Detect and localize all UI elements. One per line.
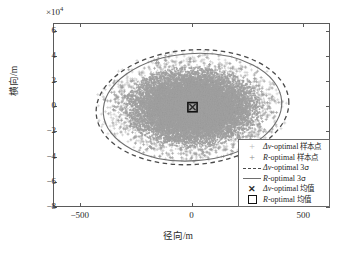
y-axis-exponent-label: ×104 xyxy=(46,5,63,17)
y-tick-right xyxy=(326,81,330,82)
legend-key xyxy=(241,168,263,169)
square-marker-icon xyxy=(248,195,257,204)
x-marker-icon: ✕ xyxy=(248,185,256,193)
legend: +Δv-optimal 样本点+R-optimal 样本点Δv-optimal … xyxy=(238,139,330,207)
plus-icon: + xyxy=(249,154,255,162)
x-tick-top xyxy=(303,23,304,27)
legend-key xyxy=(241,178,263,179)
legend-label: Δv-optimal 样本点 xyxy=(263,142,321,152)
y-tick-label: 0 xyxy=(16,100,56,110)
legend-key: + xyxy=(241,154,263,162)
y-tick-right xyxy=(326,106,330,107)
x-tick xyxy=(80,203,81,207)
legend-key xyxy=(241,195,263,204)
legend-label: Δv-optimal 3σ xyxy=(263,163,309,173)
legend-entry: R-optimal 均值 xyxy=(241,195,327,206)
y-tick-right xyxy=(326,31,330,32)
plus-faint-icon: + xyxy=(249,143,255,151)
y-tick-right xyxy=(326,131,330,132)
legend-label: Δv-optimal 均值 xyxy=(263,184,314,194)
solid-line-icon xyxy=(243,178,261,179)
y-tick-label: 6 xyxy=(16,25,56,35)
legend-entry: +R-optimal 样本点 xyxy=(241,153,327,164)
legend-key: + xyxy=(241,143,263,151)
legend-entry: Δv-optimal 3σ xyxy=(241,163,327,174)
legend-label: R-optimal 样本点 xyxy=(263,153,318,163)
scatter-figure: ×104 6420−2−4−6−8 −5000500 径向/m 横向/m +Δv… xyxy=(0,0,356,260)
x-axis-title: 径向/m xyxy=(0,228,356,242)
y-axis-title: 横向/m xyxy=(6,66,20,96)
x-tick-label: 0 xyxy=(167,210,217,220)
y-tick-label: −2 xyxy=(16,125,56,135)
y-tick-right xyxy=(326,56,330,57)
x-tick-label: 500 xyxy=(278,210,328,220)
legend-entry: +Δv-optimal 样本点 xyxy=(241,142,327,153)
y-tick-label: −8 xyxy=(16,201,56,211)
y-tick-label: 2 xyxy=(16,75,56,85)
y-tick-right xyxy=(326,207,330,208)
y-tick-label: 4 xyxy=(16,50,56,60)
x-tick-top xyxy=(80,23,81,27)
legend-entry: R-optimal 3σ xyxy=(241,174,327,185)
y-tick-label: −6 xyxy=(16,176,56,186)
x-tick xyxy=(192,203,193,207)
legend-entry: ✕Δv-optimal 均值 xyxy=(241,184,327,195)
dashed-line-icon xyxy=(243,168,261,169)
legend-label: R-optimal 3σ xyxy=(263,174,306,184)
legend-key: ✕ xyxy=(241,185,263,193)
x-tick-label: −500 xyxy=(55,210,105,220)
legend-label: R-optimal 均值 xyxy=(263,195,311,205)
y-tick-label: −4 xyxy=(16,151,56,161)
x-tick-top xyxy=(192,23,193,27)
